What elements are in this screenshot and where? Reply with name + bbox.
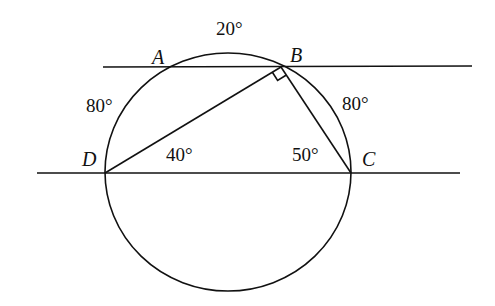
- point-label-d: D: [81, 148, 97, 170]
- arc-label-ad: 80°: [86, 95, 113, 116]
- point-label-a: A: [150, 46, 165, 68]
- angle-label-bcd: 50°: [292, 144, 319, 165]
- arc-label-ab: 20°: [216, 18, 243, 39]
- segment-bd: [105, 67, 281, 173]
- circle: [105, 53, 351, 291]
- right-angle-marker: [272, 72, 286, 80]
- arc-label-bc: 80°: [342, 93, 369, 114]
- geometry-diagram: A B C D 20° 80° 80° 40° 50°: [0, 0, 495, 306]
- angle-label-bdc: 40°: [166, 144, 193, 165]
- point-label-c: C: [362, 148, 376, 170]
- point-label-b: B: [290, 44, 302, 66]
